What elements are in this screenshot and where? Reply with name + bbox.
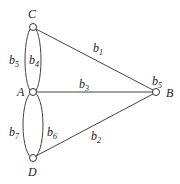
node-label-b: B bbox=[166, 86, 174, 100]
edge-label-b7: b7 bbox=[9, 125, 20, 141]
edge-label-b3: b3 bbox=[79, 77, 89, 93]
edge-b1 bbox=[36, 29, 153, 90]
edge-label-b2: b2 bbox=[91, 129, 101, 145]
node-label-c: C bbox=[28, 7, 37, 21]
edge-b2 bbox=[36, 94, 153, 156]
node-a bbox=[30, 89, 37, 96]
circuit-graph: C A D B b5 b4 b7 b6 b1 b3 b2 b5 bbox=[0, 0, 180, 184]
edge-label-b6: b6 bbox=[47, 125, 57, 141]
node-label-d: D bbox=[27, 165, 37, 179]
node-d bbox=[30, 155, 37, 162]
edge-label-b1: b1 bbox=[93, 41, 103, 57]
edge-label-b4: b4 bbox=[29, 53, 39, 69]
edge-b6-b7-loop bbox=[23, 92, 43, 158]
node-c bbox=[30, 24, 37, 31]
edge-label-b5-at-b: b5 bbox=[152, 74, 162, 90]
node-label-a: A bbox=[16, 85, 25, 99]
edge-label-b5: b5 bbox=[9, 53, 19, 69]
